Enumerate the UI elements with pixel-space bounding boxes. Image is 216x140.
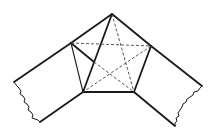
pentagon-knot-diagram: [0, 0, 216, 140]
dashed-apex-to-bottom-right: [112, 14, 134, 92]
dashed-right-to-bottom-left: [83, 46, 151, 92]
left-strip-bottom-edge: [40, 92, 83, 122]
knot-edge-apex-to-right: [112, 14, 151, 46]
right-strip-torn-edge: [175, 86, 202, 126]
dashed-left-to-bottom-right: [94, 62, 134, 92]
left-strip-torn-edge: [14, 82, 40, 122]
right-paper-strip: [134, 46, 202, 126]
right-strip-top-edge: [151, 46, 202, 86]
dashed-left-to-right: [71, 43, 151, 46]
knot-fold-apex-to-bottom-left: [83, 14, 112, 92]
knot-edge-right-side: [134, 46, 151, 92]
right-strip-bottom-edge: [134, 92, 175, 126]
pentagon-knot: [71, 14, 151, 92]
left-paper-strip: [14, 43, 83, 122]
left-strip-top-edge: [14, 43, 71, 82]
